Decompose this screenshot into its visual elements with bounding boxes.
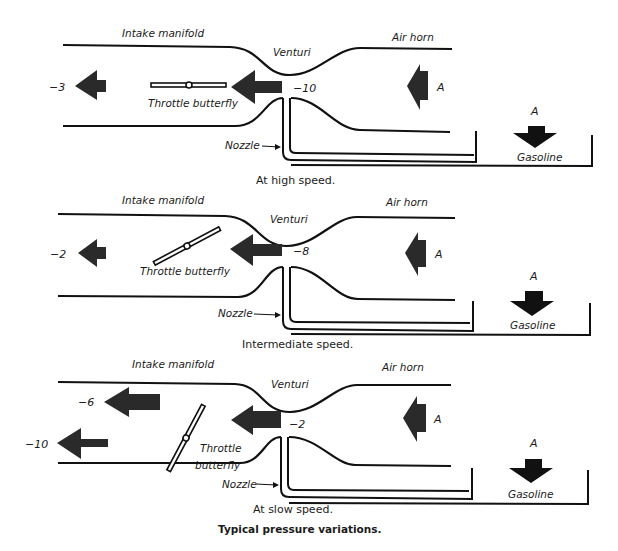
throttle-label: Throttle butterfly (140, 265, 231, 277)
gasoline-label: Gasoline (510, 319, 555, 331)
air-inflow-arrow (407, 64, 428, 110)
air-inflow-arrow (405, 232, 426, 276)
venturi-label: Venturi (270, 213, 308, 225)
intake-manifold-label: Intake manifold (122, 194, 204, 206)
nozzle-pointer-head (275, 312, 281, 318)
fuel-pressure-arrow (510, 291, 554, 316)
fuel-pressure-arrow (513, 126, 557, 148)
venturi-flow-arrow (230, 234, 282, 266)
atmospheric-fuel-label: A (530, 105, 539, 118)
carburetor-pressure-diagram: Intake manifold Venturi Air horn −3 Thro… (0, 0, 618, 551)
atmospheric-fuel-label: A (529, 437, 538, 450)
throttle-label-line2: butterfly (195, 459, 241, 471)
venturi-flow-arrow (231, 70, 282, 104)
air-horn-label: Air horn (385, 196, 428, 208)
intake-manifold-label: Intake manifold (122, 27, 204, 39)
manifold-pressure: −3 (49, 81, 65, 94)
panel-caption: At slow speed. (253, 503, 333, 516)
air-horn-label: Air horn (381, 361, 424, 373)
manifold-flow-arrow (78, 239, 106, 267)
atmospheric-air-label: A (434, 248, 443, 261)
panel-intermediate-speed: Intake manifold Venturi Air horn −2 Thro… (50, 194, 590, 351)
manifold-upper-pressure: −6 (78, 396, 94, 409)
bottom-wall-right (289, 437, 451, 466)
air-inflow-arrow (403, 396, 426, 442)
nozzle-pointer (254, 314, 278, 315)
venturi-label: Venturi (273, 46, 311, 58)
venturi-flow-arrow (231, 405, 281, 435)
manifold-lower-pressure: −10 (25, 438, 48, 451)
manifold-flow-arrow (75, 70, 106, 100)
nozzle-label: Nozzle (218, 307, 253, 319)
manifold-pressure: −2 (50, 248, 66, 261)
nozzle-pointer-head (273, 482, 279, 488)
panel-caption: Intermediate speed. (242, 338, 353, 351)
throttle-butterfly (153, 226, 221, 266)
venturi-pressure: −8 (293, 245, 309, 258)
panel-high-speed: Intake manifold Venturi Air horn −3 Thro… (49, 27, 592, 187)
venturi-pressure: −10 (293, 82, 316, 95)
panel-caption: At high speed. (256, 174, 335, 187)
fuel-pressure-arrow (509, 459, 553, 483)
panel-slow-speed: Intake manifold Venturi Air horn −6 −10 … (25, 358, 588, 516)
atmospheric-air-label: A (436, 81, 445, 94)
gasoline-label: Gasoline (517, 151, 562, 163)
nozzle-label: Nozzle (225, 139, 260, 151)
bottom-wall-right (291, 267, 455, 300)
gasoline-label: Gasoline (508, 488, 553, 500)
throttle-label-line1: Throttle (200, 442, 241, 454)
venturi-pressure: −2 (289, 418, 305, 431)
venturi-label: Venturi (271, 378, 309, 390)
nozzle-label: Nozzle (222, 478, 257, 490)
manifold-lower-flow-arrow (57, 428, 108, 459)
throttle-label: Throttle butterfly (148, 97, 239, 109)
atmospheric-air-label: A (433, 413, 442, 426)
top-wall (58, 214, 455, 246)
top-wall (63, 45, 452, 75)
atmospheric-fuel-label: A (529, 270, 538, 283)
nozzle-pointer-head (275, 144, 281, 150)
throttle-butterfly (151, 82, 226, 88)
bottom-wall-right (291, 98, 450, 132)
air-horn-label: Air horn (391, 31, 434, 43)
figure-title: Typical pressure variations. (218, 523, 382, 535)
intake-manifold-label: Intake manifold (132, 358, 214, 370)
manifold-upper-flow-arrow (104, 387, 160, 417)
